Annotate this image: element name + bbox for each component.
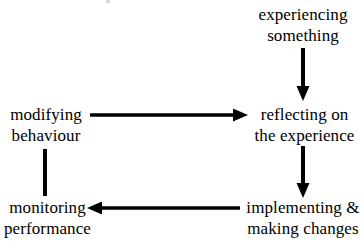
arrow-reflecting-to-implementing [297,146,310,198]
node-modifying-behaviour: modifying behaviour [0,104,92,146]
node-implementing-making-changes: implementing & making changes [242,197,364,239]
node-reflecting-on-the-experience: reflecting on the experience [245,104,364,146]
node-label-line2: something [243,25,363,46]
node-label-line1: implementing & [242,197,364,218]
node-monitoring-performance: monitoring performance [0,197,95,239]
reflective-cycle-diagram: experiencing something reflecting on the… [0,0,364,245]
node-label-line2: making changes [242,218,364,239]
node-label-line1: reflecting on [245,104,364,125]
node-label-line1: modifying [0,104,92,125]
node-label-line1: monitoring [0,197,95,218]
arrow-experiencing-to-reflecting [297,48,310,101]
arrow-implementing-to-monitoring [87,202,240,215]
arrow-modifying-to-reflecting [90,109,248,122]
node-experiencing-something: experiencing something [243,4,363,46]
node-label-line1: experiencing [243,4,363,25]
node-label-line2: behaviour [0,125,92,146]
node-label-line2: the experience [245,125,364,146]
node-label-line2: performance [0,218,95,239]
